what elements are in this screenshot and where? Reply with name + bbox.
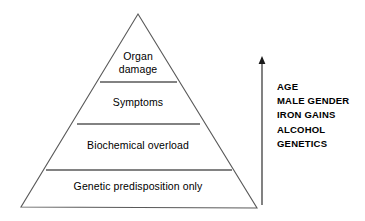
risk-factor-item: MALE GENDER <box>277 94 363 108</box>
tier-label-biochemical-overload: Biochemical overload <box>63 139 213 152</box>
tier-label-symptoms: Symptoms <box>88 96 188 109</box>
risk-factor-item: ALCOHOL <box>277 123 363 137</box>
upward-arrow-icon <box>259 56 266 205</box>
risk-factor-item: AGE <box>277 80 363 94</box>
risk-factor-item: IRON GAINS <box>277 108 363 122</box>
pyramid-outline <box>21 14 257 208</box>
risk-factor-item: GENETICS <box>277 137 363 151</box>
risk-factor-list: AGE MALE GENDER IRON GAINS ALCOHOL GENET… <box>277 80 363 151</box>
pyramid-diagram: Organ damage Symptoms Biochemical overlo… <box>0 0 365 221</box>
tier-label-organ-damage: Organ damage <box>98 50 178 76</box>
tier-label-genetic-predisposition: Genetic predisposition only <box>43 180 233 193</box>
